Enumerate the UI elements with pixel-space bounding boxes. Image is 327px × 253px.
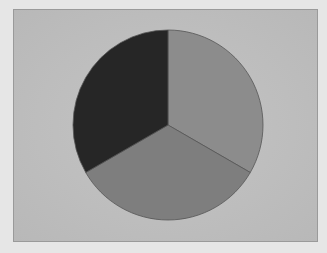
pie-chart xyxy=(0,0,327,253)
